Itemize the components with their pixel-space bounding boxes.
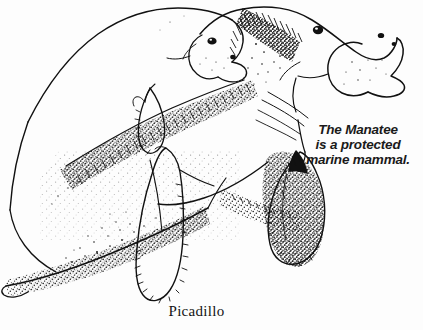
caption-line-3: marine mammal. bbox=[299, 152, 417, 167]
illustration-canvas: The Manatee is a protected marine mammal… bbox=[0, 0, 423, 330]
artist-signature-text: Picadillo bbox=[168, 303, 224, 319]
caption-line-1: The Manatee bbox=[299, 122, 417, 137]
caption-line-2: is a protected bbox=[299, 137, 417, 152]
caption-text: The Manatee is a protected marine mammal… bbox=[299, 122, 417, 167]
artist-signature: Picadillo bbox=[0, 303, 423, 320]
